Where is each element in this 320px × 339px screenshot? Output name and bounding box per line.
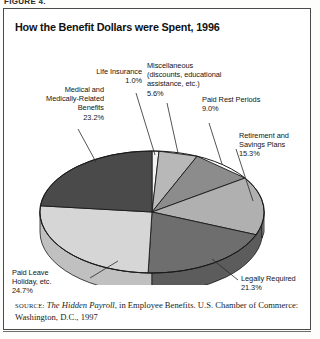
- source-note: Source: The Hidden Payroll, in Employee …: [15, 300, 299, 323]
- source-label: Source:: [15, 302, 45, 309]
- figure-box: How the Benefit Dollars were Spent, 1996: [3, 8, 311, 330]
- pie-top-face: [40, 151, 265, 273]
- pie-label-paid-rest-periods: Paid Rest Periods 9.0%: [202, 95, 292, 113]
- pie-chart: Medical and Medically-Related Benefits 2…: [4, 31, 310, 285]
- pie-label-retirement: Retirement and Savings Plans 15.3%: [239, 131, 317, 159]
- pie-label-medical: Medical and Medically-Related Benefits 2…: [10, 85, 104, 122]
- pie-label-paid-leave: Paid Leave Holiday, etc. 24.7%: [12, 268, 92, 296]
- pie-label-life-insurance: Life Insurance 1.0%: [58, 67, 142, 85]
- pie-label-miscellaneous: Miscellaneous (discounts, educational as…: [147, 61, 251, 98]
- leader-line-paid-rest: [209, 123, 222, 164]
- pie-label-legally-required: Legally Required 21.3%: [241, 274, 320, 292]
- pie-slice-medical: [40, 151, 152, 212]
- leader-line-life-insurance: [136, 93, 155, 155]
- leader-line-miscellaneous: [167, 103, 178, 153]
- page-bottom-rule: [3, 331, 311, 332]
- figure-number: FIGURE 4.: [4, 0, 74, 6]
- leader-line-medical: [78, 129, 96, 162]
- source-publication: The Hidden Payroll: [47, 300, 115, 310]
